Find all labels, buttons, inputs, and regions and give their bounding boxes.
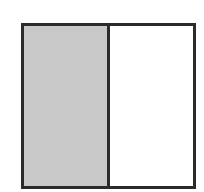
shaded-part xyxy=(24,26,107,186)
fraction-square xyxy=(21,23,196,189)
unshaded-part xyxy=(107,26,193,186)
diagram-canvas xyxy=(0,0,204,192)
